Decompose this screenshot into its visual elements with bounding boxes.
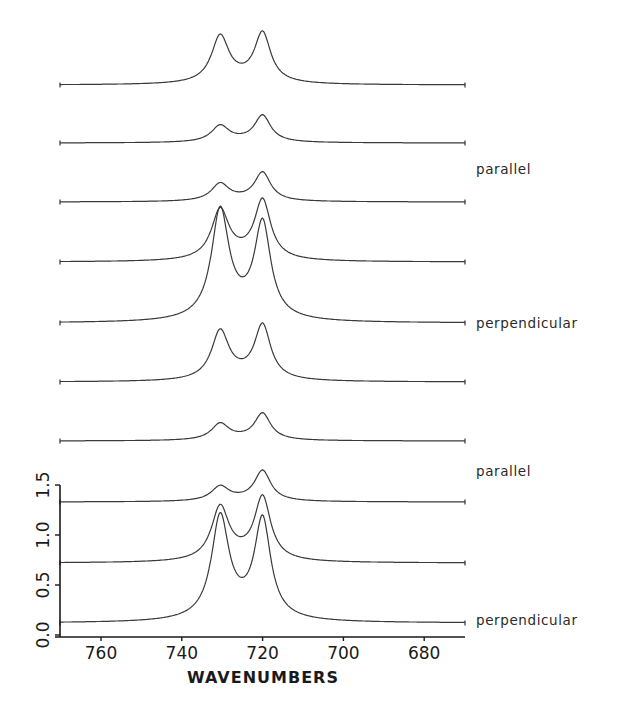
y-tick-label: 0.5 bbox=[33, 571, 53, 598]
x-tick-label: 740 bbox=[166, 643, 198, 663]
spectrum-line bbox=[60, 470, 465, 502]
annotation-label: parallel bbox=[476, 463, 531, 479]
spectrum-line bbox=[60, 198, 465, 262]
spectrum-line bbox=[60, 206, 465, 322]
annotation-label: perpendicular bbox=[476, 612, 578, 628]
y-tick-label: 1.0 bbox=[33, 521, 53, 548]
y-tick-label: 1.5 bbox=[33, 471, 53, 498]
x-tick-label: 760 bbox=[85, 643, 117, 663]
x-axis-title: WAVENUMBERS bbox=[187, 668, 339, 687]
annotation-label: perpendicular bbox=[476, 315, 578, 331]
spectra-chart: 0.00.51.01.5 760740720700680 WAVENUMBERS… bbox=[0, 0, 623, 711]
spectrum-line bbox=[60, 323, 465, 382]
spectra-group bbox=[60, 31, 465, 626]
x-tick-label: 700 bbox=[327, 643, 359, 663]
y-axis: 0.00.51.01.5 bbox=[33, 471, 60, 648]
spectrum-line bbox=[60, 513, 465, 623]
annotation-label: parallel bbox=[476, 161, 531, 177]
x-tick-label: 680 bbox=[408, 643, 440, 663]
x-tick-label: 720 bbox=[246, 643, 278, 663]
annotations: parallelperpendicularparallelperpendicul… bbox=[476, 161, 578, 628]
spectrum-line bbox=[60, 495, 465, 563]
spectrum-line bbox=[60, 115, 465, 143]
spectrum-line bbox=[60, 31, 465, 85]
x-axis: 760740720700680 bbox=[55, 637, 465, 663]
spectrum-line bbox=[60, 413, 465, 441]
y-tick-label: 0.0 bbox=[33, 621, 53, 648]
